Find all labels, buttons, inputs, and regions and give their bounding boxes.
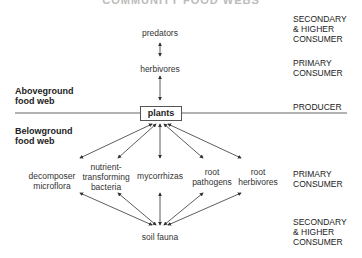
- nutrient-line2: transforming: [80, 172, 132, 182]
- root-pathogens-line1: root: [187, 167, 237, 177]
- level-line: & HIGHER: [293, 24, 347, 34]
- level-line: CONSUMER: [293, 68, 343, 78]
- node-herbivores: herbivores: [125, 64, 195, 74]
- belowground-label-line2: food web: [15, 136, 73, 146]
- node-root-herbivores: root herbivores: [233, 167, 283, 187]
- decomposer-line1: decomposer: [22, 171, 82, 181]
- level-producer: PRODUCER: [293, 102, 342, 112]
- level-line: PRIMARY: [293, 58, 343, 68]
- nutrient-line3: bacteria: [80, 182, 132, 192]
- node-root-pathogens: root pathogens: [187, 167, 237, 187]
- node-decomposer-microflora: decomposer microflora: [22, 171, 82, 191]
- level-line: CONSUMER: [293, 34, 347, 44]
- belowground-label-line1: Belowground: [15, 126, 73, 136]
- node-plants: plants: [140, 106, 182, 121]
- node-mycorrhizas: mycorrhizas: [135, 171, 185, 181]
- node-predators: predators: [130, 28, 190, 38]
- level-secondary-consumer-bottom: SECONDARY & HIGHER CONSUMER: [293, 217, 347, 247]
- root-pathogens-line2: pathogens: [187, 177, 237, 187]
- level-primary-consumer-top: PRIMARY CONSUMER: [293, 58, 343, 78]
- level-line: SECONDARY: [293, 217, 347, 227]
- aboveground-label-line2: food web: [15, 96, 74, 106]
- level-line: CONSUMER: [293, 179, 343, 189]
- level-line: & HIGHER: [293, 227, 347, 237]
- level-line: CONSUMER: [293, 237, 347, 247]
- level-line: SECONDARY: [293, 14, 347, 24]
- node-nutrient-transforming-bacteria: nutrient- transforming bacteria: [80, 162, 132, 192]
- aboveground-label-line1: Aboveground: [15, 86, 74, 96]
- root-herbivores-line1: root: [233, 167, 283, 177]
- level-line: PRIMARY: [293, 169, 343, 179]
- nutrient-line1: nutrient-: [80, 162, 132, 172]
- level-secondary-consumer-top: SECONDARY & HIGHER CONSUMER: [293, 14, 347, 44]
- level-primary-consumer-bottom: PRIMARY CONSUMER: [293, 169, 343, 189]
- belowground-label: Belowground food web: [15, 126, 73, 146]
- root-herbivores-line2: herbivores: [233, 177, 283, 187]
- decomposer-line2: microflora: [22, 181, 82, 191]
- aboveground-label: Aboveground food web: [15, 86, 74, 106]
- node-soil-fauna: soil fauna: [130, 232, 190, 242]
